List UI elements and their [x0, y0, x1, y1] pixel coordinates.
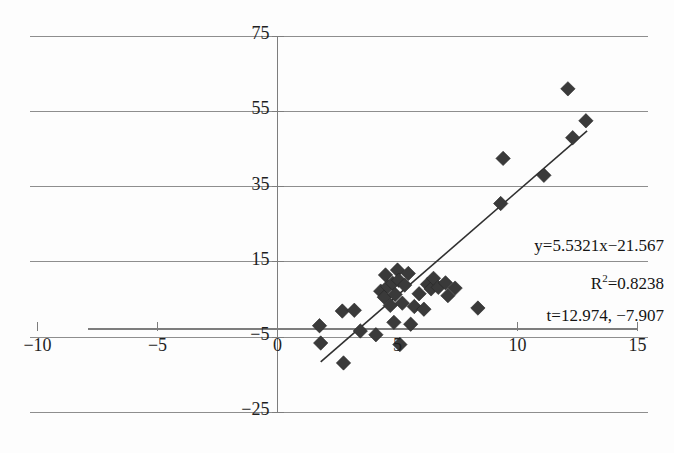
data-point-marker [537, 168, 551, 182]
scatter-chart: 75553515−5−25 −10−5051015 y=5.5321x−21.5… [0, 0, 674, 453]
x-axis-label: 10 [488, 335, 548, 356]
data-point-marker [335, 304, 349, 318]
y-axis-label: −25 [222, 399, 270, 420]
data-point-marker [314, 336, 328, 350]
x-axis-label: −10 [8, 335, 68, 356]
r-squared-label: R [591, 274, 602, 293]
data-point-marker [494, 196, 508, 210]
x-axis-label: 15 [608, 335, 668, 356]
data-point-marker [561, 82, 575, 96]
plot-area [0, 0, 674, 453]
r-squared-value: =0.8238 [608, 274, 664, 293]
data-point-marker [566, 131, 580, 145]
data-point-marker [579, 114, 593, 128]
data-point-marker [312, 319, 326, 333]
y-axis-label: 35 [222, 174, 270, 195]
gridlines-group [30, 36, 648, 412]
data-point-marker [496, 151, 510, 165]
data-point-marker [353, 324, 367, 338]
y-axis-label: 55 [222, 98, 270, 119]
y-axis-label: 75 [222, 23, 270, 44]
y-axis-label: 15 [222, 249, 270, 270]
annotation-r-squared: R2=0.8238 [406, 272, 664, 294]
x-axis-label: −5 [128, 335, 188, 356]
data-point-marker [387, 315, 401, 329]
data-points-group [312, 82, 593, 371]
x-axis-label: 0 [248, 335, 308, 356]
data-point-marker [336, 356, 350, 370]
annotation-t-values: t=12.974, −7.907 [406, 306, 664, 326]
data-point-marker [347, 303, 361, 317]
x-axis-label: 5 [368, 335, 428, 356]
annotation-equation: y=5.5321x−21.567 [406, 236, 664, 256]
